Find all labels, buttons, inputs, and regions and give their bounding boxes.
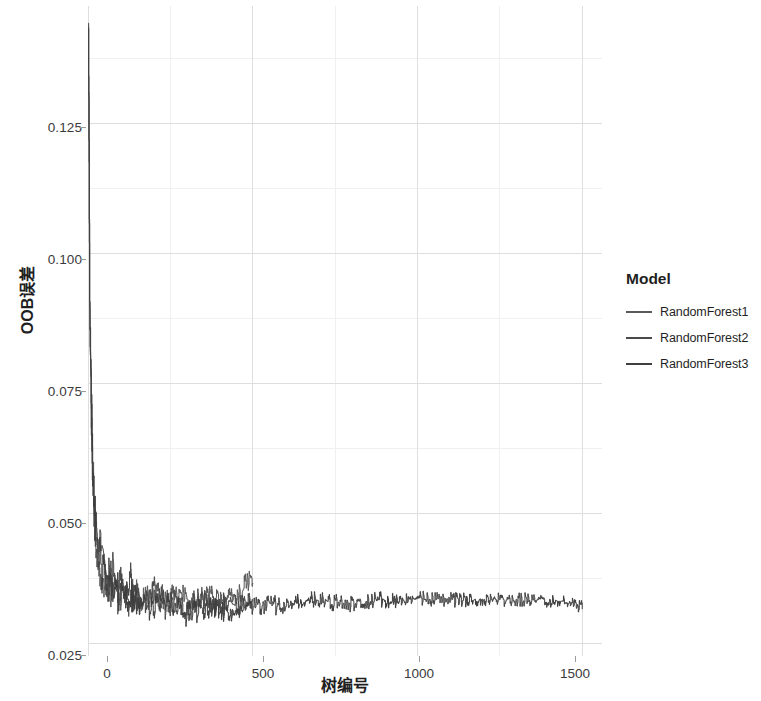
legend-item-label: RandomForest2	[660, 331, 748, 345]
legend: Model RandomForest1 RandomForest2 Random…	[626, 270, 761, 378]
legend-item-label: RandomForest1	[660, 305, 748, 319]
chart-root: 0.125 0.100 0.075 0.050 0.025 OOB误差 0 50…	[0, 0, 761, 701]
legend-item[interactable]: RandomForest1	[626, 300, 761, 324]
legend-title: Model	[626, 270, 761, 288]
legend-item-label: RandomForest3	[660, 357, 748, 371]
legend-item[interactable]: RandomForest2	[626, 326, 761, 350]
x-tick-mark	[419, 656, 420, 662]
legend-item[interactable]: RandomForest3	[626, 352, 761, 376]
x-tick-mark	[575, 656, 576, 662]
x-axis-title: 树编号	[88, 672, 602, 696]
legend-line-icon	[626, 305, 652, 319]
legend-line-icon	[626, 357, 652, 371]
x-tick-mark	[263, 656, 264, 662]
x-tick-mark	[107, 656, 108, 662]
legend-line-icon	[626, 331, 652, 345]
